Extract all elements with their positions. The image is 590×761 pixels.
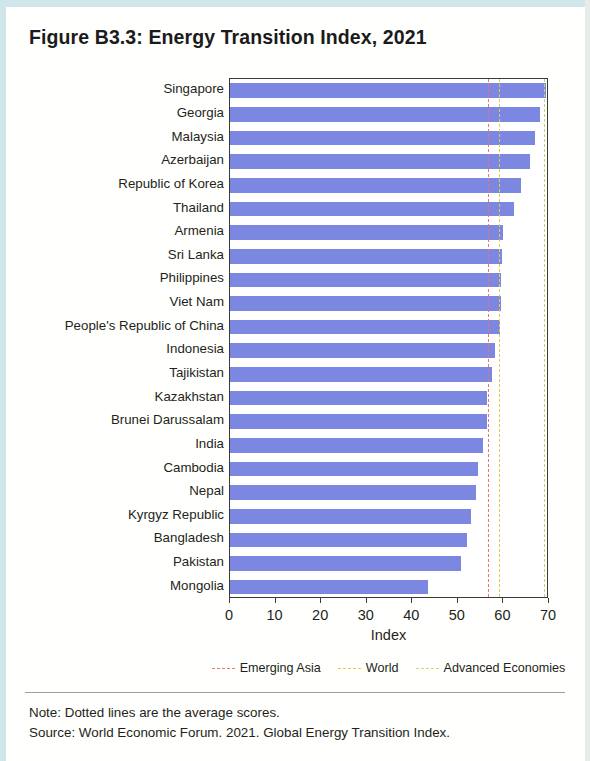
y-axis-label: Sri Lanka: [14, 247, 224, 262]
x-tick: [275, 598, 276, 603]
bar: [230, 556, 461, 571]
x-tick-label: 40: [403, 607, 419, 623]
y-axis-label: Cambodia: [14, 460, 224, 475]
legend-dash-icon: [212, 668, 235, 669]
y-axis-label: Azerbaijan: [14, 152, 224, 167]
bar: [230, 367, 492, 382]
x-tick-label: 0: [225, 607, 233, 623]
bar: [230, 225, 503, 240]
x-tick: [548, 598, 549, 603]
y-axis-label: Nepal: [14, 483, 224, 498]
legend-label: Advanced Economies: [444, 661, 566, 675]
bar: [230, 131, 535, 146]
reference-line-advanced-economies: [544, 79, 545, 597]
y-axis-label: Armenia: [14, 223, 224, 238]
y-axis-label: India: [14, 436, 224, 451]
figure-note: Note: Dotted lines are the average score…: [29, 703, 569, 723]
y-axis-label: People's Republic of China: [14, 318, 224, 333]
bar: [230, 509, 471, 524]
x-tick-label: 10: [266, 607, 282, 623]
legend-item: World: [338, 661, 399, 675]
bar: [230, 462, 478, 477]
bar: [230, 438, 483, 453]
y-axis-label: Indonesia: [14, 341, 224, 356]
x-axis-title: Index: [229, 627, 548, 643]
x-tick-label: 70: [540, 607, 556, 623]
bar: [230, 343, 495, 358]
bar: [230, 178, 521, 193]
y-axis-category-labels: SingaporeGeorgiaMalaysiaAzerbaijanRepubl…: [14, 78, 224, 598]
x-tick-label: 50: [449, 607, 465, 623]
figure-source: Source: World Economic Forum. 2021. Glob…: [29, 723, 569, 743]
bar: [230, 202, 514, 217]
legend-label: World: [366, 661, 399, 675]
x-tick-label: 60: [494, 607, 510, 623]
y-axis-label: Singapore: [14, 81, 224, 96]
reference-line-emerging-asia: [488, 79, 489, 597]
y-axis-label: Kyrgyz Republic: [14, 507, 224, 522]
legend-dash-icon: [416, 668, 439, 669]
y-axis-label: Bangladesh: [14, 530, 224, 545]
bar: [230, 414, 487, 429]
figure-footer: Note: Dotted lines are the average score…: [29, 703, 569, 743]
x-tick: [366, 598, 367, 603]
y-axis-label: Kazakhstan: [14, 389, 224, 404]
legend-item: Advanced Economies: [416, 661, 566, 675]
bar: [230, 107, 540, 122]
reference-line-world: [499, 79, 500, 597]
bar: [230, 391, 487, 406]
x-tick: [411, 598, 412, 603]
chart-legend: Emerging AsiaWorldAdvanced Economies: [229, 661, 548, 675]
x-tick: [229, 598, 230, 603]
legend-item: Emerging Asia: [212, 661, 321, 675]
bar: [230, 533, 467, 548]
bar: [230, 580, 428, 595]
x-tick-label: 30: [358, 607, 374, 623]
bar: [230, 249, 502, 264]
legend-dash-icon: [338, 668, 361, 669]
y-axis-label: Tajikistan: [14, 365, 224, 380]
y-axis-label: Viet Nam: [14, 294, 224, 309]
bar: [230, 485, 476, 500]
plot-area: [229, 78, 548, 598]
bar: [230, 320, 500, 335]
y-axis-label: Republic of Korea: [14, 176, 224, 191]
y-axis-label: Mongolia: [14, 578, 224, 593]
footer-divider: [25, 692, 565, 693]
y-axis-label: Georgia: [14, 105, 224, 120]
x-tick: [457, 598, 458, 603]
y-axis-label: Philippines: [14, 270, 224, 285]
bar-chart: SingaporeGeorgiaMalaysiaAzerbaijanRepubl…: [0, 0, 590, 761]
x-tick: [502, 598, 503, 603]
y-axis-label: Thailand: [14, 200, 224, 215]
x-tick: [320, 598, 321, 603]
y-axis-label: Pakistan: [14, 554, 224, 569]
bar: [230, 296, 501, 311]
bar: [230, 273, 501, 288]
legend-label: Emerging Asia: [240, 661, 321, 675]
y-axis-label: Brunei Darussalam: [14, 412, 224, 427]
y-axis-label: Malaysia: [14, 129, 224, 144]
x-tick-label: 20: [312, 607, 328, 623]
bar: [230, 154, 530, 169]
